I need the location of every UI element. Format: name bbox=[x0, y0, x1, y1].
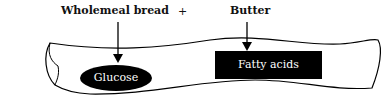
label-fatty-acids: Fatty acids bbox=[215, 58, 322, 71]
arrowhead-right-icon bbox=[242, 42, 252, 51]
label-wholemeal-bread: Wholemeal bread bbox=[61, 4, 169, 17]
label-butter: Butter bbox=[230, 4, 270, 17]
plus-sign: + bbox=[178, 5, 187, 18]
arrowhead-left-icon bbox=[113, 54, 123, 63]
intestine-diagram bbox=[0, 0, 389, 99]
label-glucose: Glucose bbox=[80, 71, 152, 84]
